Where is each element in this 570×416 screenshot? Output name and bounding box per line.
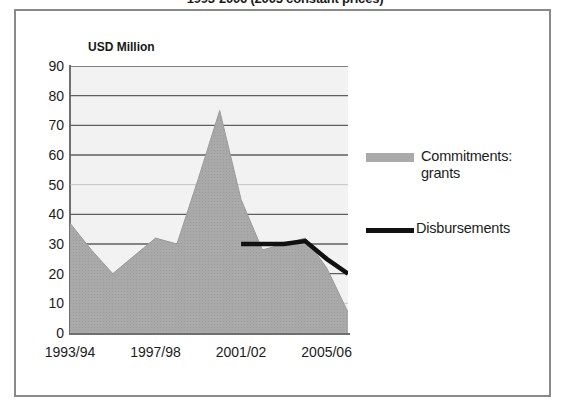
x-axis-line bbox=[69, 333, 350, 335]
y-tick-label: 0 bbox=[30, 327, 64, 340]
y-axis-tick-labels: 0102030405060708090 bbox=[30, 60, 64, 340]
chart-title: 1993-2006 (2005 constant prices) bbox=[0, 0, 570, 7]
y-tick-label: 80 bbox=[30, 90, 64, 103]
y-tick-label: 40 bbox=[30, 208, 64, 221]
legend-label-commitments-grants: Commitments: grants bbox=[421, 148, 546, 182]
y-tick-label: 30 bbox=[30, 238, 64, 251]
x-tick-label: 2005/06 bbox=[301, 344, 352, 360]
line-swatch-icon bbox=[366, 228, 414, 233]
y-tick-label: 60 bbox=[30, 149, 64, 162]
legend-item-commitments-grants: Commitments: grants bbox=[366, 148, 546, 182]
chart-page: 1993-2006 (2005 constant prices) USD Mil… bbox=[0, 0, 570, 416]
y-tick-label: 90 bbox=[30, 60, 64, 73]
y-tick-label: 50 bbox=[30, 179, 64, 192]
y-tick-label: 10 bbox=[30, 297, 64, 310]
legend-label-disbursements: Disbursements bbox=[416, 220, 510, 237]
y-axis-unit-label: USD Million bbox=[88, 40, 155, 54]
x-tick-label: 1993/94 bbox=[45, 344, 96, 360]
x-axis-tick-labels: 1993/941997/982001/022005/06 bbox=[70, 344, 370, 366]
series-area-commitments-grants bbox=[70, 111, 348, 334]
chart-title-strip: 1993-2006 (2005 constant prices) bbox=[0, 0, 570, 9]
chart-legend: Commitments: grants Disbursements bbox=[366, 148, 546, 275]
x-tick-label: 2001/02 bbox=[216, 344, 267, 360]
chart-canvas bbox=[70, 66, 348, 333]
area-swatch-icon bbox=[366, 153, 414, 162]
y-tick-label: 70 bbox=[30, 119, 64, 132]
y-tick-label: 20 bbox=[30, 268, 64, 281]
legend-item-disbursements: Disbursements bbox=[366, 220, 546, 237]
x-tick-label: 1997/98 bbox=[130, 344, 181, 360]
